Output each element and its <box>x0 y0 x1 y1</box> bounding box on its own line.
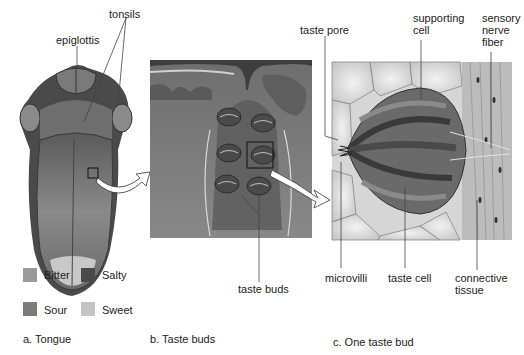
label-taste-cell: taste cell <box>388 272 431 284</box>
label-taste-buds: taste buds <box>238 283 289 295</box>
legend-label-bitter: Bitter <box>44 269 70 281</box>
legend-swatch-salty <box>81 268 95 282</box>
label-epiglottis: epiglottis <box>56 34 99 46</box>
label-supporting-cell: supporting cell <box>413 12 464 36</box>
label-connective-tissue: connective tissue <box>455 272 508 296</box>
caption-tongue: a. Tongue <box>23 333 71 345</box>
legend-label-salty: Salty <box>102 269 126 281</box>
legend-swatch-sweet <box>81 302 95 316</box>
caption-taste-buds: b. Taste buds <box>150 333 215 345</box>
diagram-illustrations <box>0 0 524 355</box>
legend-label-sweet: Sweet <box>102 304 133 316</box>
taste-bud-illustration <box>332 62 512 240</box>
tongue-illustration <box>20 65 132 296</box>
label-microvilli: microvilli <box>325 272 367 284</box>
legend-swatch-sour <box>23 302 37 316</box>
taste-buds-illustration <box>150 60 312 238</box>
label-sensory-nerve-fiber: sensory nerve fiber <box>482 12 521 48</box>
legend-swatch-bitter <box>23 268 37 282</box>
label-tonsils: tonsils <box>109 8 140 20</box>
caption-one-taste-bud: c. One taste bud <box>333 336 414 348</box>
label-taste-pore: taste pore <box>300 24 349 36</box>
legend-label-sour: Sour <box>44 304 67 316</box>
